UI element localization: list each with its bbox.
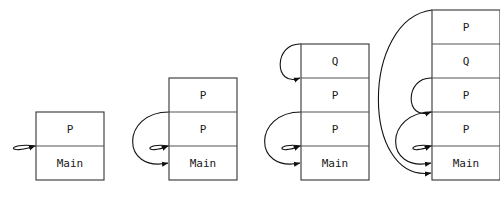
arrows-group-4	[378, 10, 432, 173]
stack-group-2: PPMain	[133, 78, 237, 180]
return-arrow	[282, 145, 301, 149]
call-stack-diagram: PMainPPMainQPPMainPQPPMain	[0, 0, 500, 200]
frame-label: P	[67, 123, 74, 136]
frame-label: Main	[57, 157, 84, 170]
stack-group-1: PMain	[13, 112, 104, 180]
stacks-layer: PMainPPMainQPPMainPQPPMain	[13, 10, 500, 180]
frame-label: Q	[463, 55, 470, 68]
frame-label: Main	[322, 157, 349, 170]
return-arrow	[413, 145, 432, 149]
frame-label: P	[200, 123, 207, 136]
return-arrow	[280, 44, 301, 79]
diagram-canvas: PMainPPMainQPPMainPQPPMain	[0, 0, 500, 200]
arrows-group-1	[13, 145, 36, 149]
return-arrow	[265, 112, 301, 164]
return-arrow	[13, 145, 36, 149]
frame-label: P	[463, 123, 470, 136]
frame-label: P	[332, 89, 339, 102]
frame-label: P	[463, 21, 470, 34]
return-arrow	[411, 78, 432, 113]
frame-label: Main	[190, 157, 217, 170]
frame-label: P	[200, 89, 207, 102]
arrows-group-3	[265, 44, 301, 164]
stack-group-3: QPPMain	[265, 44, 369, 180]
return-arrow	[150, 145, 169, 149]
frame-label: P	[332, 123, 339, 136]
return-arrow	[133, 112, 169, 164]
return-arrow	[396, 112, 432, 164]
frame-label: Q	[332, 55, 339, 68]
stack-group-4: PQPPMain	[378, 10, 500, 180]
frame-label: Main	[453, 157, 480, 170]
arrows-group-2	[133, 112, 169, 164]
frame-label: P	[463, 89, 470, 102]
